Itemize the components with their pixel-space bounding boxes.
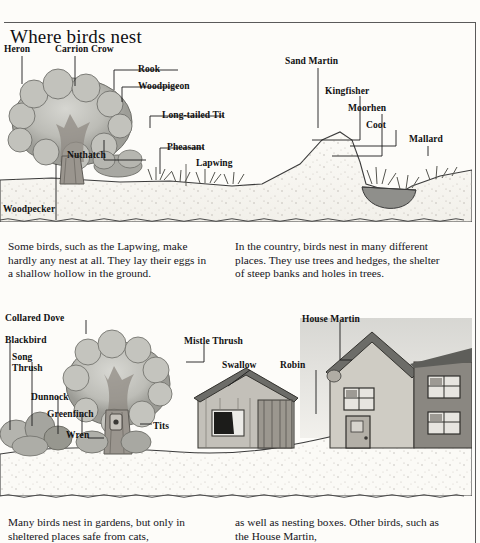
body-text-right-upper: In the country, birds nest in many diffe… bbox=[235, 240, 445, 281]
label-swallow: Swallow bbox=[222, 360, 256, 370]
label-sand-martin: Sand Martin bbox=[285, 56, 338, 66]
label-nuthatch: Nuthatch bbox=[67, 150, 106, 160]
label-mistle-thrush: Mistle Thrush bbox=[184, 336, 243, 346]
label-coot: Coot bbox=[366, 120, 386, 130]
label-song-thrush: SongThrush bbox=[12, 352, 54, 373]
label-wren: Wren bbox=[66, 430, 89, 440]
label-heron: Heron bbox=[4, 44, 30, 54]
label-moorhen: Moorhen bbox=[348, 103, 386, 113]
body-text-left-lower: Many birds nest in gardens, but only in … bbox=[8, 516, 213, 543]
label-tits: Tits bbox=[153, 421, 169, 431]
label-carrion-crow: Carrion Crow bbox=[55, 44, 114, 54]
label-pheasant: Pheasant bbox=[167, 142, 205, 152]
body-text-right-lower: as well as nesting boxes. Other birds, s… bbox=[235, 516, 445, 543]
label-lapwing: Lapwing bbox=[196, 158, 233, 168]
label-robin: Robin bbox=[280, 360, 305, 370]
label-collared-dove: Collared Dove bbox=[5, 313, 64, 323]
frame-rule-right bbox=[475, 22, 476, 543]
wavy-divider-bottom bbox=[0, 492, 472, 500]
garden-shed bbox=[194, 368, 298, 448]
label-blackbird: Blackbird bbox=[5, 335, 47, 345]
label-mallard: Mallard bbox=[409, 134, 443, 144]
wavy-divider-top bbox=[0, 216, 472, 224]
label-dunnock: Dunnock bbox=[31, 392, 69, 402]
frame-rule-top bbox=[4, 22, 476, 23]
label-long-tailed-tit: Long-tailed Tit bbox=[162, 110, 225, 120]
label-house-martin: House Martin bbox=[302, 314, 360, 324]
label-kingfisher: Kingfisher bbox=[325, 86, 369, 96]
label-woodpigeon: Woodpigeon bbox=[138, 81, 190, 91]
label-woodpecker: Woodpecker bbox=[3, 204, 55, 214]
label-greenfinch: Greenfinch bbox=[47, 409, 94, 419]
body-text-left-upper: Some birds, such as the Lapwing, make ha… bbox=[8, 240, 213, 281]
label-rook: Rook bbox=[138, 64, 160, 74]
countryside-illustration bbox=[0, 44, 472, 222]
page-canvas: Where birds nest bbox=[0, 0, 480, 543]
